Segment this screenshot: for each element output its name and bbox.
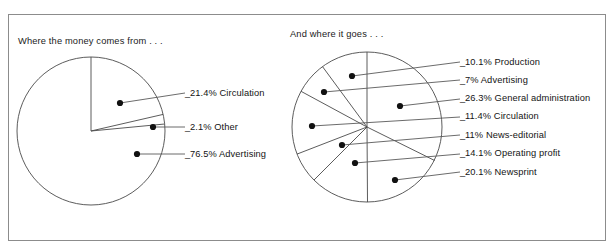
right-slice-boundary-2 — [301, 91, 367, 127]
right-marker-production — [349, 73, 355, 79]
right-slice-boundary-1 — [323, 67, 368, 127]
right-leader-line-production — [352, 62, 460, 76]
right-leader-line-advertising — [324, 80, 460, 92]
left-label-text-2: 76.5% Advertising — [190, 149, 266, 159]
right-label-newsprint: _20.1% Newsprint — [460, 167, 537, 177]
right-marker-advertising — [321, 89, 327, 95]
right-label-general-administration: _26.3% General administration — [460, 93, 590, 103]
right-marker-general-administration — [397, 103, 403, 109]
left-label-advertising: _76.5% Advertising — [185, 149, 266, 159]
right-label-text-3: 11.4% Circulation — [465, 111, 539, 121]
right-label-news-editorial: _11% News-editorial — [460, 130, 546, 140]
right-label-text-1: 7% Advertising — [465, 75, 528, 85]
right-label-advertising: _7% Advertising — [460, 75, 528, 85]
left-marker-other — [150, 124, 156, 130]
right-leader-line-newsprint — [395, 172, 460, 180]
right-pie-chart — [290, 0, 616, 251]
right-leader-line-general-administration — [400, 99, 460, 106]
left-label-circulation: _21.4% Circulation — [185, 88, 265, 98]
pie-chart-figure: Where the money comes from . . . _21.4% … — [0, 0, 616, 251]
right-slice-boundary-5 — [367, 127, 368, 202]
right-label-production: _10.1% Production — [460, 57, 540, 67]
right-label-text-5: 14.1% Operating profit — [465, 148, 560, 158]
right-marker-operating-profit — [352, 160, 358, 166]
right-slice-boundary-3 — [297, 127, 367, 154]
right-label-text-2: 26.3% General administration — [465, 93, 590, 103]
right-marker-newsprint — [392, 177, 398, 183]
left-leader-line-circulation — [120, 93, 185, 103]
left-label-text-0: 21.4% Circulation — [190, 88, 265, 98]
right-label-text-0: 10.1% Production — [465, 57, 540, 67]
left-marker-circulation — [117, 100, 123, 106]
left-label-other: _2.1% Other — [185, 122, 238, 132]
right-label-text-6: 20.1% Newsprint — [465, 167, 537, 177]
right-slice-boundary-4 — [314, 127, 367, 180]
right-leader-line-circulation — [312, 117, 460, 126]
right-label-circulation: _11.4% Circulation — [460, 111, 539, 121]
right-slice-boundary-6 — [367, 127, 435, 161]
right-leader-line-operating-profit — [355, 154, 460, 163]
right-label-operating-profit: _14.1% Operating profit — [460, 148, 560, 158]
right-label-text-4: 11% News-editorial — [465, 130, 546, 140]
right-marker-news-editorial — [339, 142, 345, 148]
right-marker-circulation — [309, 123, 315, 129]
left-pie-chart — [0, 0, 300, 251]
left-label-text-1: 2.1% Other — [190, 122, 238, 132]
left-marker-advertising — [134, 151, 140, 157]
